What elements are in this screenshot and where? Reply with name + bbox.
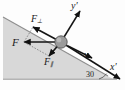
- label-axis-y-prime: y′: [71, 1, 78, 11]
- label-velocity-text: v: [84, 49, 88, 60]
- label-axis-y-prime-mark: ′: [75, 0, 77, 11]
- label-incline-angle: 30: [86, 71, 94, 79]
- label-force-perpendicular-subscript: ⊥: [37, 17, 42, 24]
- ball-body: [55, 36, 67, 48]
- label-force-F: F: [12, 37, 19, 48]
- label-force-perpendicular: F⊥: [31, 14, 42, 25]
- label-axis-x-prime: x′: [110, 62, 117, 72]
- label-force-parallel-subscript: ∥: [50, 60, 53, 67]
- label-force-F-text: F: [12, 36, 19, 48]
- label-force-parallel: F∥: [44, 57, 53, 68]
- label-axis-x-prime-mark: ′: [114, 61, 116, 72]
- label-velocity: v: [84, 50, 88, 60]
- ball-highlight: [57, 38, 62, 43]
- inclined-plane-force-diagram: F F⊥ F∥ v y′ x′ 30: [0, 0, 125, 90]
- label-incline-angle-text: 30: [86, 70, 94, 79]
